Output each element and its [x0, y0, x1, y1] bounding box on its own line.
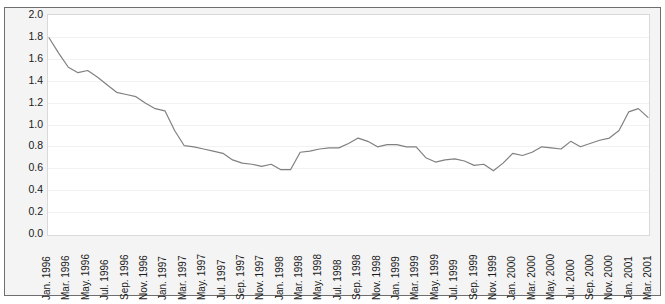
x-tick-label: Mar. 2000 — [527, 256, 537, 300]
x-tick-label: Sep. 1997 — [236, 254, 246, 300]
x-tick-label: Sep. 1998 — [352, 254, 362, 300]
y-axis-tick-labels: 2.01.81.61.41.21.00.80.60.40.20.0 — [0, 0, 45, 304]
y-tick-label: 1.6 — [28, 53, 43, 63]
x-tick-label: Sep. 2000 — [585, 254, 595, 300]
chart-figure: 2.01.81.61.41.21.00.80.60.40.20.0 Jan. 1… — [0, 0, 665, 304]
x-tick-label: Nov. 1997 — [255, 255, 265, 300]
x-tick-label: Jan. 2001 — [624, 256, 634, 300]
plot-area — [47, 14, 650, 236]
x-tick-label: May. 1997 — [197, 254, 207, 300]
x-tick-label: Jan. 1998 — [275, 256, 285, 300]
y-tick-label: 0.4 — [28, 184, 43, 194]
x-tick-label: Mar. 1998 — [294, 256, 304, 300]
x-tick-label: Sep. 1996 — [120, 254, 130, 300]
x-tick-label: Jan. 2000 — [507, 256, 517, 300]
y-tick-label: 1.8 — [28, 31, 43, 41]
y-tick-label: 1.2 — [28, 97, 43, 107]
x-tick-label: Nov. 2000 — [604, 255, 614, 300]
x-tick-label: Jan. 1997 — [158, 256, 168, 300]
x-tick-label: Mar. 1996 — [61, 256, 71, 300]
x-tick-label: Nov. 1998 — [372, 255, 382, 300]
x-tick-label: Jul. 2000 — [566, 259, 576, 300]
y-tick-label: 1.0 — [28, 119, 43, 129]
y-tick-label: 0.8 — [28, 140, 43, 150]
y-tick-label: 1.4 — [28, 75, 43, 85]
x-tick-label: May. 1996 — [81, 254, 91, 300]
x-tick-label: May. 2000 — [546, 254, 556, 300]
x-tick-label: Nov. 1996 — [139, 255, 149, 300]
y-tick-label: 0.6 — [28, 162, 43, 172]
x-tick-label: May. 1998 — [313, 254, 323, 300]
x-axis-tick-labels: Jan. 1996Mar. 1996May. 1996Jul. 1996Sep.… — [47, 238, 650, 300]
x-tick-label: Jan. 1996 — [42, 256, 52, 300]
x-tick-label: Nov. 1999 — [488, 255, 498, 300]
x-tick-label: May. 1999 — [430, 254, 440, 300]
x-tick-label: Sep. 1999 — [469, 254, 479, 300]
x-tick-label: Jul. 1999 — [449, 259, 459, 300]
x-tick-label: Mar. 1999 — [410, 256, 420, 300]
x-tick-label: Jul. 1996 — [100, 259, 110, 300]
series-line-svg — [48, 15, 649, 235]
cropped-header-text — [0, 0, 665, 7]
x-tick-label: Jul. 1997 — [217, 259, 227, 300]
y-tick-label: 0.2 — [28, 206, 43, 216]
x-tick-label: Jan. 1999 — [391, 256, 401, 300]
y-tick-label: 0.0 — [28, 228, 43, 238]
series-line-path — [49, 38, 648, 171]
y-tick-label: 2.0 — [28, 9, 43, 19]
x-tick-label: Jul. 1998 — [333, 259, 343, 300]
x-tick-label: Mar. 2001 — [643, 256, 653, 300]
x-tick-label: Mar. 1997 — [178, 256, 188, 300]
